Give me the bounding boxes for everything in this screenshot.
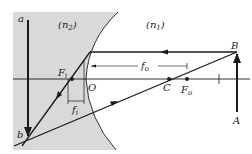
- label-Fo: Fo: [180, 84, 192, 97]
- label-C: C: [163, 82, 171, 93]
- label-B: B: [230, 40, 238, 51]
- point-Fi: [70, 77, 74, 81]
- point-Fo: [185, 77, 189, 81]
- refraction-diagram: (n2) (n1) a b B A O C Fi Fo fo fi: [0, 0, 252, 154]
- label-b: b: [17, 129, 23, 140]
- medium-n1-label: (n1): [146, 19, 165, 32]
- label-a: a: [18, 13, 24, 24]
- ray-parallel-arrow: [160, 50, 168, 55]
- label-A: A: [232, 115, 240, 126]
- fo-arrow-left: [91, 65, 96, 68]
- label-O: O: [88, 82, 96, 93]
- point-C: [167, 77, 171, 81]
